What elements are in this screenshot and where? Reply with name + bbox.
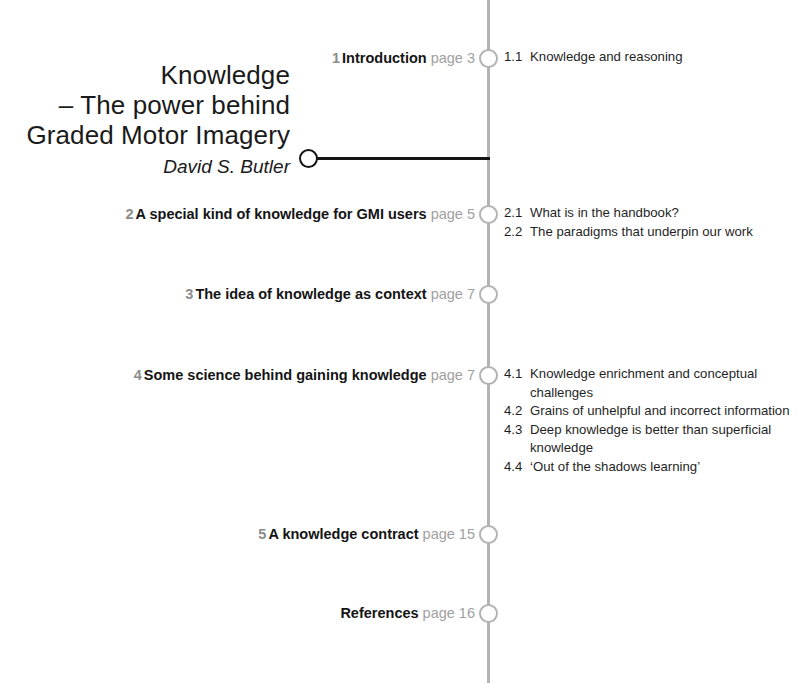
author-name: David S. Butler xyxy=(0,154,290,180)
subsection-number: 2.2 xyxy=(504,223,530,242)
subsection-item[interactable]: 2.1What is in the handbook? xyxy=(504,204,794,223)
subsection-number: 2.1 xyxy=(504,204,530,223)
timeline-spine xyxy=(487,0,490,683)
subsection-item[interactable]: 4.3Deep knowledge is better than superfi… xyxy=(504,421,794,458)
subsection-number: 4.2 xyxy=(504,402,530,421)
chapter-title: A special kind of knowledge for GMI user… xyxy=(136,206,427,222)
subsection-text: Grains of unhelpful and incorrect inform… xyxy=(530,402,794,421)
subsection-text: ‘Out of the shadows learning’ xyxy=(530,458,794,477)
chapter-page-number: page 15 xyxy=(423,526,475,542)
chapter-number: 3 xyxy=(185,286,193,302)
subsection-text: Knowledge enrichment and conceptual chal… xyxy=(530,365,794,402)
chapter-number: 5 xyxy=(258,526,266,542)
timeline-node xyxy=(479,49,498,68)
timeline-node xyxy=(479,604,498,623)
subsection-item[interactable]: 4.4‘Out of the shadows learning’ xyxy=(504,458,794,477)
timeline-node xyxy=(479,205,498,224)
chapter-entry[interactable]: 2A special kind of knowledge for GMI use… xyxy=(125,205,475,223)
subsection-number: 1.1 xyxy=(504,48,530,67)
chapter-title: The idea of knowledge as context xyxy=(195,286,426,302)
chapter-page-number: page 5 xyxy=(431,206,475,222)
chapter-entry[interactable]: Referencespage 16 xyxy=(340,604,475,622)
timeline-node xyxy=(479,525,498,544)
chapter-entry[interactable]: 5A knowledge contractpage 15 xyxy=(258,525,475,543)
chapter-title: Introduction xyxy=(342,50,427,66)
subsection-item[interactable]: 4.2Grains of unhelpful and incorrect inf… xyxy=(504,402,794,421)
timeline-node xyxy=(479,285,498,304)
chapter-page-number: page 3 xyxy=(431,50,475,66)
subsection-group: 2.1What is in the handbook?2.2The paradi… xyxy=(504,204,794,241)
author-node-marker xyxy=(299,149,318,168)
timeline-node xyxy=(479,366,498,385)
subsection-text: The paradigms that underpin our work xyxy=(530,223,794,242)
title-line-2: – The power behind xyxy=(0,90,290,120)
subsection-text: Knowledge and reasoning xyxy=(530,48,794,67)
title-block: Knowledge – The power behind Graded Moto… xyxy=(0,60,290,180)
title-line-1: Knowledge xyxy=(0,60,290,90)
chapter-number: 1 xyxy=(332,50,340,66)
subsection-group: 1.1Knowledge and reasoning xyxy=(504,48,794,67)
title-line-3: Graded Motor Imagery xyxy=(0,120,290,150)
chapter-title: A knowledge contract xyxy=(268,526,418,542)
subsection-text: What is in the handbook? xyxy=(530,204,794,223)
subsection-item[interactable]: 4.1Knowledge enrichment and conceptual c… xyxy=(504,365,794,402)
chapter-entry[interactable]: 1Introductionpage 3 xyxy=(332,49,475,67)
chapter-title: References xyxy=(340,605,418,621)
subsection-number: 4.1 xyxy=(504,365,530,384)
subsection-text: Deep knowledge is better than superficia… xyxy=(530,421,794,458)
chapter-entry[interactable]: 3The idea of knowledge as contextpage 7 xyxy=(185,285,475,303)
subsection-item[interactable]: 2.2The paradigms that underpin our work xyxy=(504,223,794,242)
subsection-item[interactable]: 1.1Knowledge and reasoning xyxy=(504,48,794,67)
subsection-number: 4.3 xyxy=(504,421,530,440)
subsection-number: 4.4 xyxy=(504,458,530,477)
chapter-page-number: page 16 xyxy=(423,605,475,621)
author-connector-line xyxy=(317,157,490,160)
chapter-page-number: page 7 xyxy=(431,367,475,383)
chapter-entry[interactable]: 4Some science behind gaining knowledgepa… xyxy=(134,366,475,384)
chapter-page-number: page 7 xyxy=(431,286,475,302)
chapter-title: Some science behind gaining knowledge xyxy=(144,367,427,383)
chapter-number: 4 xyxy=(134,367,142,383)
chapter-number: 2 xyxy=(125,206,133,222)
subsection-group: 4.1Knowledge enrichment and conceptual c… xyxy=(504,365,794,476)
